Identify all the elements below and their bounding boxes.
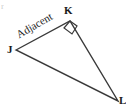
geometry-figure: J K L Adjacent r <box>0 0 126 109</box>
vertex-label-l: L <box>119 95 126 106</box>
vertex-label-j: J <box>7 44 13 55</box>
triangle-drawing <box>0 0 126 109</box>
clipped-corner-mark: r <box>1 3 4 10</box>
vertex-label-k: K <box>64 5 73 16</box>
